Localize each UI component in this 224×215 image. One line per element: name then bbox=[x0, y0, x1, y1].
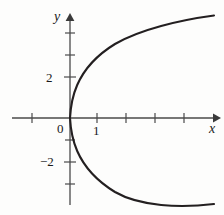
x-axis-label: x bbox=[209, 122, 215, 136]
parabola-lower-branch bbox=[70, 118, 214, 206]
x-tick-label-1: 1 bbox=[93, 124, 100, 137]
y-tick-label-minus-2: −2 bbox=[40, 155, 54, 168]
y-axis-label: y bbox=[54, 10, 60, 24]
y-axis-arrowhead bbox=[66, 13, 75, 21]
y-tick-label-2: 2 bbox=[46, 71, 53, 84]
origin-tick-label: 0 bbox=[57, 122, 64, 135]
parabola-figure: y x 0 1 2 −2 bbox=[0, 0, 224, 215]
parabola-upper-branch bbox=[70, 16, 214, 119]
plot-canvas bbox=[0, 0, 224, 215]
